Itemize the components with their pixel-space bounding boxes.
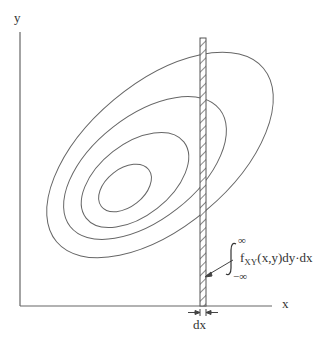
integrand-args: (x,y)dy·dx	[257, 250, 312, 265]
contour-ellipse-3	[38, 69, 252, 268]
upper-limit: ∞	[238, 234, 246, 246]
joint-density-diagram	[0, 0, 328, 342]
integrand-subscript: XY	[244, 257, 257, 267]
contour-ellipse-1	[90, 155, 161, 222]
dx-label: dx	[193, 317, 206, 333]
y-axis-label: y	[14, 10, 21, 26]
lower-limit: −∞	[233, 270, 247, 282]
dx-dimension-arrows	[188, 309, 218, 316]
integration-strip	[200, 38, 206, 306]
integrand-expression: fXY(x,y)dy·dx	[240, 250, 313, 266]
x-axis-label: x	[282, 296, 289, 312]
